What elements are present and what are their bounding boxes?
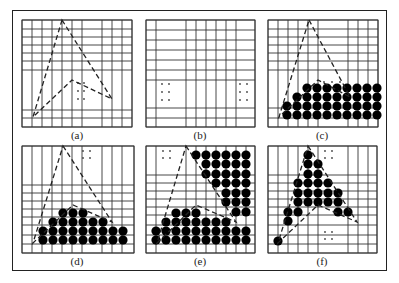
panel-c (268, 20, 382, 127)
panel-d (22, 146, 134, 253)
filled-pixels (282, 83, 381, 119)
marker-dots (82, 150, 91, 159)
panel-label-e: (e) (194, 255, 206, 267)
panel-label-b: (b) (194, 129, 207, 141)
panel-f (268, 146, 377, 253)
grid-lines (22, 20, 132, 127)
scanline-fill-figure (0, 0, 399, 283)
marker-dots (162, 150, 171, 159)
panel-label-d: (d) (71, 255, 84, 267)
marker-dots (77, 82, 85, 100)
filled-pixels (273, 150, 352, 245)
grid-lines (146, 20, 255, 127)
polygon-outline (33, 20, 112, 117)
panel-label-c: (c) (316, 129, 328, 141)
panel-e (146, 146, 255, 253)
marker-dots (323, 81, 341, 83)
panel-b (146, 20, 255, 127)
filled-pixels (151, 150, 250, 244)
panel-label-a: (a) (71, 129, 83, 141)
panel-label-f: (f) (317, 255, 328, 267)
panel-a (22, 20, 132, 127)
marker-dots (161, 83, 248, 101)
